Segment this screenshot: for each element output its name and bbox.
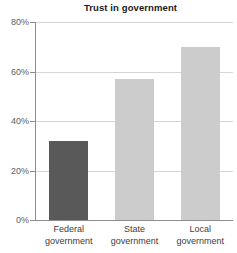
x-axis-label-line-2: government [102,236,168,248]
x-axis-line [35,220,233,221]
bar-chart: Trust in government 80% 60% 40% 20% 0% F… [0,0,237,253]
x-axis-label-line-1: State [102,224,168,236]
x-axis-label-local-government: Local government [167,224,233,247]
bar-state-government[interactable] [115,79,154,220]
x-axis-label-line-2: government [167,236,233,248]
x-axis-label-line-1: Local [167,224,233,236]
bars-layer [0,0,237,220]
bar-local-government[interactable] [181,47,220,220]
x-axis-label-line-1: Federal [36,224,102,236]
x-axis-label-federal-government: Federal government [36,224,102,247]
x-axis-label-state-government: State government [102,224,168,247]
x-axis-label-line-2: government [36,236,102,248]
bar-federal-government[interactable] [49,141,88,220]
